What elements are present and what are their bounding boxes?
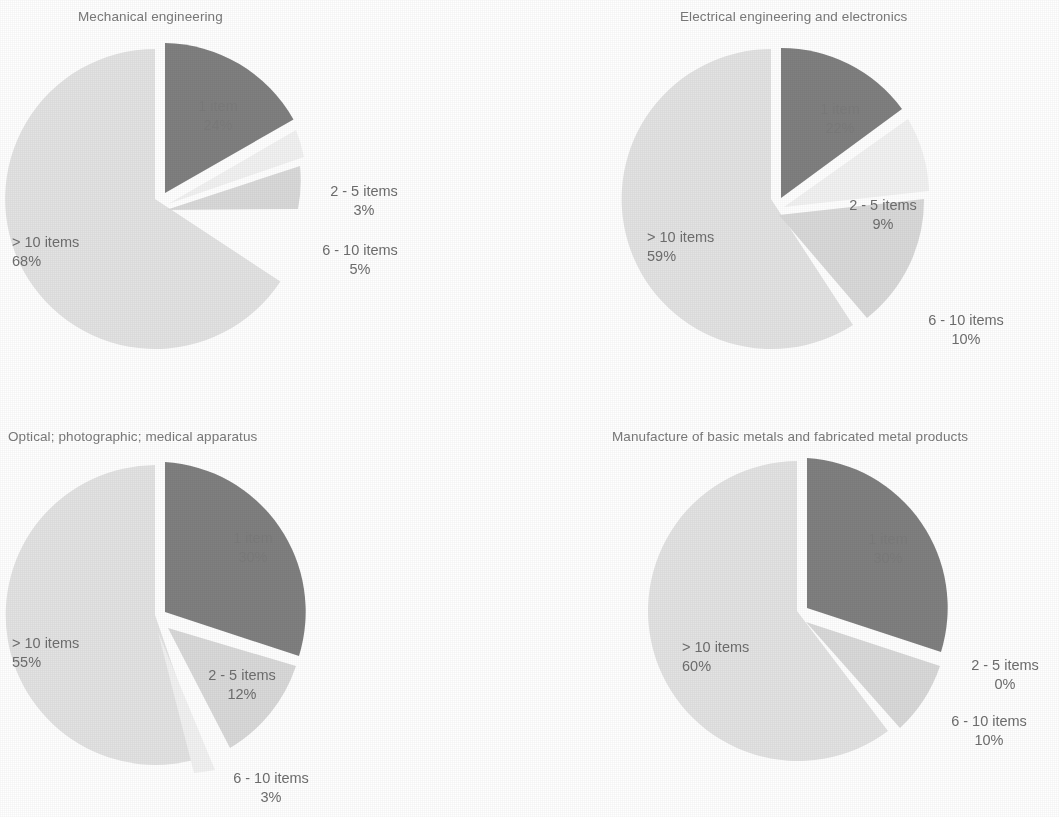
pie-label-6to10-4-value: 10% (934, 731, 1044, 750)
pie-label-gt10-3: > 10 items 55% (12, 634, 127, 672)
pie-label-2to5-4: 2 - 5 items 0% (955, 656, 1055, 694)
pie-label-1item-1-name: 1 item (198, 98, 238, 114)
pie-label-gt10-1-name: > 10 items (12, 234, 79, 250)
pie-label-1item-1-value: 24% (173, 116, 263, 135)
pie-label-2to5-1-name: 2 - 5 items (330, 183, 398, 199)
pie-label-2to5-4-name: 2 - 5 items (971, 657, 1039, 673)
pie-panel-mechanical-engineering: Mechanical engineering > 10 items 68% 1 … (0, 0, 530, 408)
pie-label-1item-3-name: 1 item (233, 530, 273, 546)
chart-title-2: Electrical engineering and electronics (680, 9, 907, 24)
pie-label-2to5-2-name: 2 - 5 items (849, 197, 917, 213)
pie-label-2to5-3-name: 2 - 5 items (208, 667, 276, 683)
pie-label-gt10-4-value: 60% (682, 657, 797, 676)
pie-panel-optical-apparatus: Optical; photographic; medical apparatus… (0, 408, 530, 817)
pie-label-gt10-2: > 10 items 59% (647, 228, 757, 266)
pie-label-2to5-4-value: 0% (955, 675, 1055, 694)
pie-label-gt10-1: > 10 items 68% (12, 233, 132, 271)
pie-svg-3 (8, 460, 318, 770)
pie-svg-4 (650, 456, 960, 766)
chart-title-3: Optical; photographic; medical apparatus (8, 429, 257, 444)
pie-label-6to10-4: 6 - 10 items 10% (934, 712, 1044, 750)
pie-label-2to5-3: 2 - 5 items 12% (192, 666, 292, 704)
pie-label-1item-1: 1 item 24% (173, 97, 263, 135)
pie-label-6to10-3: 6 - 10 items 3% (216, 769, 326, 807)
pie-label-2to5-2-value: 9% (833, 215, 933, 234)
pie-label-gt10-4: > 10 items 60% (682, 638, 797, 676)
pie-label-gt10-4-name: > 10 items (682, 639, 749, 655)
pie-label-1item-2: 1 item 22% (795, 100, 885, 138)
pie-label-6to10-1-value: 5% (305, 260, 415, 279)
pie-label-1item-2-name: 1 item (820, 101, 860, 117)
pie-chart-3 (8, 460, 318, 770)
pie-label-gt10-3-name: > 10 items (12, 635, 79, 651)
pie-label-2to5-3-value: 12% (192, 685, 292, 704)
pie-label-1item-3-value: 30% (208, 548, 298, 567)
pie-label-1item-3: 1 item 30% (208, 529, 298, 567)
pie-label-6to10-1-name: 6 - 10 items (322, 242, 398, 258)
pie-label-6to10-4-name: 6 - 10 items (951, 713, 1027, 729)
pie-label-6to10-2-value: 10% (911, 330, 1021, 349)
pie-label-gt10-1-value: 68% (12, 252, 132, 271)
pie-label-6to10-1: 6 - 10 items 5% (305, 241, 415, 279)
pie-label-6to10-3-value: 3% (216, 788, 326, 807)
pie-label-2to5-1-value: 3% (314, 201, 414, 220)
pie-label-1item-4-name: 1 item (868, 531, 908, 547)
pie-label-1item-2-value: 22% (795, 119, 885, 138)
pie-svg-1 (8, 44, 318, 354)
pie-chart-4 (650, 456, 960, 766)
pie-panel-basic-metals: Manufacture of basic metals and fabricat… (530, 408, 1059, 817)
pie-label-6to10-2: 6 - 10 items 10% (911, 311, 1021, 349)
pie-label-1item-4-value: 30% (843, 549, 933, 568)
pie-label-6to10-3-name: 6 - 10 items (233, 770, 309, 786)
pie-label-1item-4: 1 item 30% (843, 530, 933, 568)
pie-label-2to5-2: 2 - 5 items 9% (833, 196, 933, 234)
chart-title-1: Mechanical engineering (78, 9, 223, 24)
pie-label-gt10-2-name: > 10 items (647, 229, 714, 245)
pie-chart-1 (8, 44, 318, 354)
pie-panel-electrical-engineering: Electrical engineering and electronics >… (530, 0, 1059, 408)
pie-label-gt10-3-value: 55% (12, 653, 127, 672)
pie-label-6to10-2-name: 6 - 10 items (928, 312, 1004, 328)
pie-label-gt10-2-value: 59% (647, 247, 757, 266)
pie-label-2to5-1: 2 - 5 items 3% (314, 182, 414, 220)
chart-title-4: Manufacture of basic metals and fabricat… (612, 429, 968, 444)
